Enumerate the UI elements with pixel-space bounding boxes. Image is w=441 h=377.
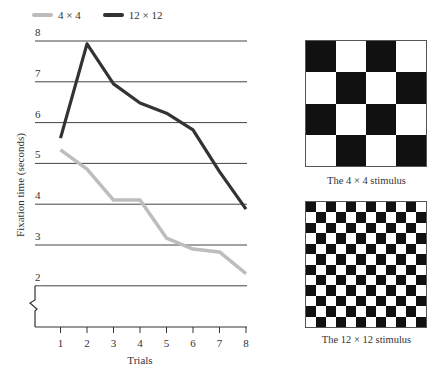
checker-cell bbox=[356, 265, 366, 275]
legend-item-4x4: 4 × 4 bbox=[32, 9, 81, 21]
checker-cell bbox=[336, 265, 346, 275]
checker-cell bbox=[366, 275, 376, 285]
checker-cell bbox=[316, 233, 326, 243]
checker-cell bbox=[366, 296, 376, 306]
checker-cell bbox=[306, 104, 336, 135]
checker-cell bbox=[306, 317, 316, 327]
checker-cell bbox=[386, 265, 396, 275]
legend-swatch-12x12 bbox=[103, 13, 124, 17]
checker-cell bbox=[396, 233, 406, 243]
checker-cell bbox=[366, 212, 376, 222]
checker-cell bbox=[316, 317, 326, 327]
checker-cell bbox=[306, 285, 316, 295]
checker-cell bbox=[356, 306, 366, 316]
y-tick-labels: 2345678 bbox=[35, 26, 41, 283]
stimulus-12x12-caption: The 12 × 12 stimulus bbox=[296, 334, 437, 345]
x-tick-label-7: 7 bbox=[217, 337, 223, 349]
checker-cell bbox=[316, 296, 326, 306]
checker-cell bbox=[416, 317, 426, 327]
checker-cell bbox=[416, 223, 426, 233]
checker-cell bbox=[386, 296, 396, 306]
checker-cell bbox=[396, 285, 406, 295]
checker-cell bbox=[336, 104, 366, 135]
y-axis-break bbox=[30, 286, 37, 327]
checker-cell bbox=[306, 233, 316, 243]
checker-cell bbox=[316, 244, 326, 254]
checker-cell bbox=[346, 244, 356, 254]
y-tick-label-2: 2 bbox=[35, 271, 41, 283]
checker-cell bbox=[326, 317, 336, 327]
checker-cell bbox=[376, 233, 386, 243]
checker-cell bbox=[416, 275, 426, 285]
checker-cell bbox=[416, 296, 426, 306]
checker-cell bbox=[396, 306, 406, 316]
x-axis-label: Trials bbox=[127, 354, 152, 366]
checker-cell bbox=[326, 223, 336, 233]
checker-cell bbox=[416, 306, 426, 316]
stimulus-12x12-checkerboard bbox=[305, 201, 427, 328]
checker-cell bbox=[336, 317, 346, 327]
checker-cell bbox=[326, 202, 336, 212]
checker-cell bbox=[356, 202, 366, 212]
checker-cell bbox=[416, 202, 426, 212]
checker-cell bbox=[326, 254, 336, 264]
checker-cell bbox=[366, 72, 396, 103]
x-tick-label-2: 2 bbox=[84, 337, 90, 349]
checker-cell bbox=[386, 244, 396, 254]
checker-cell bbox=[386, 306, 396, 316]
checker-cell bbox=[376, 317, 386, 327]
checker-cell bbox=[406, 317, 416, 327]
checker-cell bbox=[366, 202, 376, 212]
checker-cell bbox=[326, 212, 336, 222]
y-tick-label-3: 3 bbox=[35, 230, 41, 242]
checker-cell bbox=[346, 212, 356, 222]
checker-cell bbox=[386, 285, 396, 295]
checker-cell bbox=[406, 306, 416, 316]
checker-cell bbox=[356, 254, 366, 264]
y-tick-label-8: 8 bbox=[35, 26, 41, 38]
checker-cell bbox=[346, 306, 356, 316]
checker-cell bbox=[306, 265, 316, 275]
checker-cell bbox=[326, 265, 336, 275]
checker-cell bbox=[416, 233, 426, 243]
checker-cell bbox=[356, 317, 366, 327]
checker-cell bbox=[316, 254, 326, 264]
checker-cell bbox=[396, 41, 426, 72]
checker-cell bbox=[396, 244, 406, 254]
checker-cell bbox=[326, 306, 336, 316]
checker-cell bbox=[346, 265, 356, 275]
checker-cell bbox=[396, 72, 426, 103]
checker-cell bbox=[336, 41, 366, 72]
checker-cell bbox=[406, 285, 416, 295]
checker-cell bbox=[406, 296, 416, 306]
legend-label-4x4: 4 × 4 bbox=[58, 9, 81, 21]
checker-cell bbox=[366, 233, 376, 243]
checker-cell bbox=[396, 223, 406, 233]
checker-cell bbox=[346, 254, 356, 264]
checker-cell bbox=[376, 285, 386, 295]
checker-cell bbox=[346, 275, 356, 285]
checker-cell bbox=[356, 223, 366, 233]
checker-cell bbox=[336, 72, 366, 103]
series-line-12x12 bbox=[61, 44, 247, 209]
checker-cell bbox=[316, 212, 326, 222]
checker-cell bbox=[376, 275, 386, 285]
checker-cell bbox=[306, 244, 316, 254]
checker-cell bbox=[306, 202, 316, 212]
checker-cell bbox=[336, 296, 346, 306]
y-tick-label-7: 7 bbox=[35, 67, 41, 79]
checker-cell bbox=[316, 285, 326, 295]
checker-cell bbox=[386, 275, 396, 285]
checker-cell bbox=[326, 244, 336, 254]
checker-cell bbox=[336, 212, 346, 222]
checker-cell bbox=[386, 212, 396, 222]
checker-cell bbox=[396, 212, 406, 222]
checker-cell bbox=[326, 275, 336, 285]
checker-cell bbox=[306, 135, 336, 166]
checker-cell bbox=[316, 275, 326, 285]
checker-cell bbox=[376, 296, 386, 306]
checker-cell bbox=[396, 254, 406, 264]
checker-cell bbox=[396, 265, 406, 275]
checker-cell bbox=[336, 233, 346, 243]
checker-cell bbox=[366, 41, 396, 72]
